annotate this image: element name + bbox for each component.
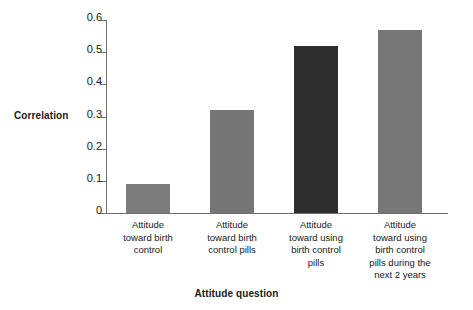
y-axis-tick-label: 0.3: [87, 109, 102, 120]
y-axis-title: Correlation: [14, 110, 68, 121]
y-axis-tick-label: 0: [96, 205, 102, 216]
bar: [126, 184, 170, 213]
bar-chart-figure: Correlation 00.10.20.30.40.50.6 Attitude…: [0, 0, 473, 310]
category-label-line: toward birth: [186, 232, 278, 245]
x-axis-category-label: Attitudetoward birthcontrol pills: [186, 219, 278, 257]
x-axis-category-label: Attitudetoward birthcontrol: [102, 219, 194, 257]
category-label-line: control: [102, 244, 194, 257]
x-axis-category-label: Attitudetoward usingbirth controlpills d…: [354, 219, 446, 282]
bar: [294, 46, 338, 213]
bar: [210, 110, 254, 213]
category-label-line: next 2 years: [354, 269, 446, 282]
category-label-line: Attitude: [102, 219, 194, 232]
category-label-line: toward birth: [102, 232, 194, 245]
category-label-line: control pills: [186, 244, 278, 257]
bar: [378, 30, 422, 213]
category-label-line: toward using: [354, 232, 446, 245]
x-axis-category-label: Attitudetoward usingbirth controlpills: [270, 219, 362, 269]
category-label-line: Attitude: [186, 219, 278, 232]
y-axis-tick-label: 0.6: [87, 12, 102, 23]
y-axis-tick-label: 0.1: [87, 173, 102, 184]
category-label-line: Attitude: [354, 219, 446, 232]
y-axis-tick-label: 0.5: [87, 44, 102, 55]
plot-area: 00.10.20.30.40.50.6: [106, 20, 442, 213]
category-label-line: pills: [270, 257, 362, 270]
y-axis-line: [106, 20, 107, 213]
x-axis-line: [100, 213, 448, 214]
category-label-line: Attitude: [270, 219, 362, 232]
category-label-line: birth control: [270, 244, 362, 257]
category-label-line: pills during the: [354, 257, 446, 270]
category-label-line: toward using: [270, 232, 362, 245]
y-axis-tick-label: 0.4: [87, 76, 102, 87]
y-axis-tick-label: 0.2: [87, 141, 102, 152]
category-label-line: birth control: [354, 244, 446, 257]
x-axis-title: Attitude question: [0, 288, 473, 299]
